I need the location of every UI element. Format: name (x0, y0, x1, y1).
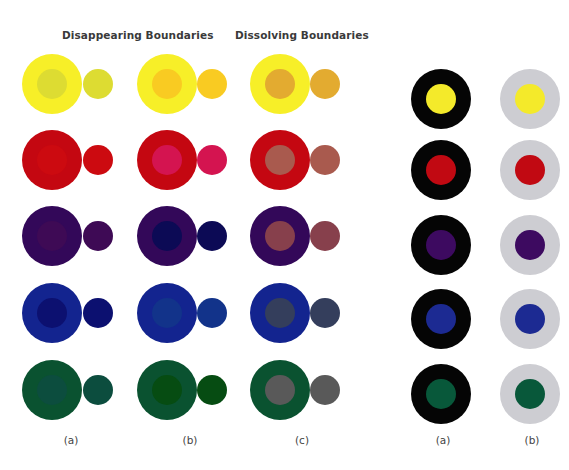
label-right-b: (b) (525, 434, 540, 446)
label-left-a: (a) (64, 434, 79, 446)
center-dot-b-2 (515, 230, 545, 260)
label-left-b: (b) (183, 434, 198, 446)
center-dot-b-4 (515, 379, 545, 409)
center-dot-a-2 (426, 230, 456, 260)
right-figure-circles (0, 0, 569, 470)
center-dot-a-4 (426, 379, 456, 409)
label-right-a: (a) (436, 434, 451, 446)
center-dot-a-1 (426, 155, 456, 185)
center-dot-b-1 (515, 155, 545, 185)
label-left-c: (c) (295, 434, 309, 446)
center-dot-b-3 (515, 304, 545, 334)
center-dot-b-0 (515, 84, 545, 114)
center-dot-a-0 (426, 84, 456, 114)
center-dot-a-3 (426, 304, 456, 334)
